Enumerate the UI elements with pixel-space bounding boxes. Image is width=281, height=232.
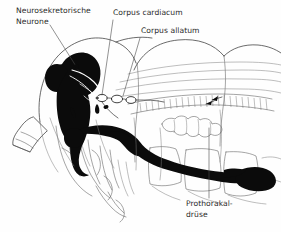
label-corpus-cardiacum: Corpus cardiacum	[113, 8, 183, 17]
anatomical-diagram: Neurosekretorische Neurone Corpus cardia…	[0, 0, 281, 232]
figure-root: Neurosekretorische Neurone Corpus cardia…	[0, 0, 281, 232]
label-neurosekretorische-neurone-line2: Neurone	[16, 17, 49, 26]
label-corpus-allatum: Corpus allatum	[141, 26, 200, 35]
label-prothorakaldruese-line1: Prothorakal-	[186, 199, 233, 208]
label-neurosekretorische-neurone-line1: Neurosekretorische	[16, 6, 91, 15]
label-prothorakaldruese-line2: drüse	[186, 210, 208, 219]
